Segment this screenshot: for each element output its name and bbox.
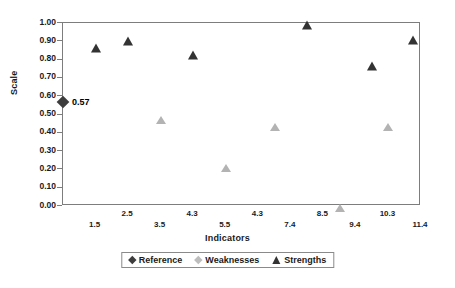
triangle-icon — [272, 256, 280, 264]
legend-item-strengths[interactable]: Strengths — [272, 255, 326, 265]
x-axis-tick-label: 4.3 — [187, 210, 198, 218]
y-axis-tick-mark — [57, 205, 62, 206]
legend-item-label: Strengths — [284, 255, 326, 265]
data-point-weaknesses — [335, 204, 345, 212]
data-point-strengths — [91, 43, 101, 52]
data-point-strengths — [123, 36, 133, 45]
plot-area: 0.57 — [62, 22, 420, 205]
y-axis-title: Scale — [9, 70, 19, 95]
y-axis-tick-label: 0.10 — [26, 182, 56, 191]
data-point-value-label: 0.57 — [72, 97, 90, 107]
data-point-weaknesses — [221, 164, 231, 172]
x-axis-tick-label: 5.5 — [219, 221, 230, 229]
y-axis-tick-label: 0.00 — [26, 201, 56, 210]
y-axis-tick-label: 0.90 — [26, 36, 56, 45]
diamond-icon — [128, 256, 136, 264]
y-axis-tick-label: 0.50 — [26, 109, 56, 118]
x-axis-tick-label: 3.5 — [154, 221, 165, 229]
legend-item-label: Weaknesses — [205, 255, 259, 265]
data-point-strengths — [188, 51, 198, 60]
chart-legend: ReferenceWeaknessesStrengths — [121, 252, 334, 268]
y-axis-tick-label: 0.20 — [26, 164, 56, 173]
legend-item-label: Reference — [139, 255, 183, 265]
x-axis-tick-label: 2.5 — [122, 210, 133, 218]
x-axis-tick-label: 9.4 — [349, 221, 360, 229]
x-axis-tick-label: 11.4 — [412, 221, 427, 229]
y-axis-tick-label: 0.70 — [26, 72, 56, 81]
y-axis-tick-label: 0.40 — [26, 127, 56, 136]
legend-item-reference[interactable]: Reference — [129, 255, 183, 265]
y-axis-tick-label: 0.80 — [26, 54, 56, 63]
y-axis-tick-label: 0.30 — [26, 146, 56, 155]
scatter-chart: Scale 1.000.900.800.700.600.500.400.300.… — [0, 0, 455, 288]
data-point-weaknesses — [156, 116, 166, 124]
data-point-weaknesses — [270, 123, 280, 131]
data-point-strengths — [302, 21, 312, 30]
x-axis-title: Indicators — [0, 233, 455, 243]
diamond-icon — [194, 256, 202, 264]
legend-item-weaknesses[interactable]: Weaknesses — [195, 255, 259, 265]
x-axis-tick-label: 7.4 — [284, 221, 295, 229]
x-axis-tick-label: 10.3 — [380, 210, 396, 218]
data-point-strengths — [408, 35, 418, 44]
x-axis-tick-label: 1.5 — [89, 221, 100, 229]
data-point-reference — [57, 95, 70, 108]
y-axis-tick-label: 1.00 — [26, 18, 56, 27]
cropped-caption-strip — [0, 0, 455, 9]
y-axis-tick-label: 0.60 — [26, 91, 56, 100]
data-point-strengths — [367, 62, 377, 71]
x-axis-tick-label: 4.3 — [252, 210, 263, 218]
data-point-weaknesses — [383, 123, 393, 131]
x-axis-tick-label: 8.5 — [317, 210, 328, 218]
